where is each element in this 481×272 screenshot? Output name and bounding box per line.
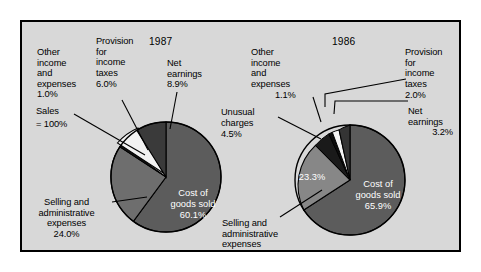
label-1986-net-earnings-value: 3.2% — [397, 127, 453, 138]
leader-1986-other-income — [313, 97, 321, 122]
label-1987-sales-note-line2: = 100% — [36, 119, 96, 130]
label-1987-provision-value: 6.0% — [96, 79, 136, 90]
leader-1986-net-earnings — [334, 101, 408, 114]
label-1986-net-earnings: Net earnings — [408, 106, 461, 127]
pie-chart-figure: 1987 Other income and expenses 1.0% Prov… — [20, 20, 461, 252]
label-1987-selling: Selling and administrative expenses — [22, 197, 111, 229]
label-1986-unusual-charges: Unusual charges — [221, 107, 276, 128]
label-1987-net-earnings-value: 8.9% — [167, 79, 207, 90]
label-1986-other-income-value: 1.1% — [275, 90, 315, 101]
label-1987-other-income-value: 1.0% — [37, 89, 77, 100]
chart-title-1986: 1986 — [332, 36, 355, 47]
leader-1986-provision — [325, 79, 406, 107]
label-1986-selling-value: 23.3% — [288, 172, 336, 183]
label-1987-provision: Provision for income taxes — [96, 36, 158, 78]
label-1986-other-income: Other income and expenses — [251, 47, 313, 89]
label-1987-sales-note-line1: Sales — [36, 106, 88, 117]
label-1987-selling-value: 24.0% — [22, 229, 111, 240]
label-1986-provision: Provision for income taxes — [405, 47, 461, 89]
label-1987-other-income: Other income and expenses — [37, 47, 97, 89]
label-1986-cogs: Cost of goods sold — [340, 179, 416, 201]
label-1987-cogs: Cost of goods sold — [156, 188, 230, 210]
label-1986-cogs-value: 65.9% — [340, 201, 416, 212]
label-1986-unusual-charges-value: 4.5% — [221, 129, 261, 140]
label-1986-provision-value: 2.0% — [405, 90, 445, 101]
label-1987-cogs-value: 60.1% — [156, 210, 230, 221]
label-1986-selling: Selling and administrative expenses — [222, 218, 314, 250]
leader-1986-unusual-charges — [278, 117, 321, 139]
label-1987-net-earnings: Net earnings — [167, 58, 223, 79]
